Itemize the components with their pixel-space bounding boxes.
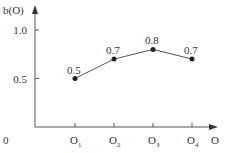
x-tick-label: O2 — [109, 134, 121, 149]
data-label: 0.8 — [145, 34, 159, 46]
line-chart: b(O) O 0 0.51.0 O1O2O3O4 0.50.70.80.7 — [0, 0, 227, 153]
data-point-marker — [190, 57, 195, 62]
x-tick-label: O1 — [70, 134, 82, 149]
data-label: 0.5 — [67, 64, 81, 76]
data-label: 0.7 — [184, 44, 198, 56]
y-tick-label: 0.5 — [13, 73, 27, 85]
data-point-marker — [73, 76, 78, 81]
x-tick-label: O3 — [148, 134, 160, 149]
data-points: 0.50.70.80.7 — [67, 34, 198, 81]
origin-label: 0 — [3, 134, 9, 146]
data-point-marker — [112, 57, 117, 62]
data-point-marker — [151, 47, 156, 52]
series-line — [75, 49, 192, 78]
y-tick-label: 1.0 — [13, 24, 27, 36]
x-axis-arrow-icon — [209, 124, 218, 130]
y-axis-arrow-icon — [32, 5, 38, 14]
data-label: 0.7 — [106, 44, 120, 56]
x-axis-label: O — [211, 134, 219, 146]
x-tick-label: O4 — [187, 134, 199, 149]
y-axis-label: b(O) — [3, 4, 24, 17]
